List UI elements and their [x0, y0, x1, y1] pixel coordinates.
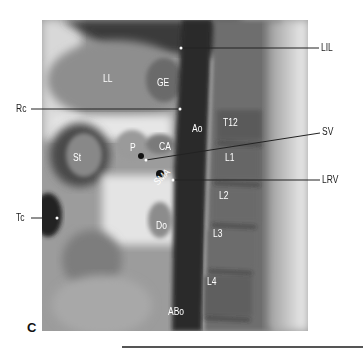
- label-Do: Do: [156, 221, 167, 231]
- mri-tissue-rendering: [42, 20, 308, 331]
- label-GE: GE: [157, 78, 169, 88]
- label-SV: SV: [322, 127, 333, 137]
- label-Tc: Tc: [16, 213, 25, 223]
- label-ABo: ABo: [168, 307, 184, 317]
- bottom-rule: [122, 346, 363, 348]
- label-LRV: LRV: [322, 175, 338, 185]
- label-L1: L1: [225, 153, 234, 163]
- label-L4: L4: [207, 277, 216, 287]
- label-P: P: [130, 143, 136, 153]
- label-CA: CA: [159, 142, 171, 152]
- label-T12: T12: [223, 118, 238, 128]
- panel-letter: C: [27, 320, 36, 335]
- label-Rc: Rc: [16, 104, 26, 114]
- mri-sagittal-image: LL GE Ao T12 P CA St L1 SMA L2 Do L3 L4 …: [42, 20, 308, 331]
- label-LIL: LIL: [321, 43, 333, 53]
- label-L3: L3: [213, 229, 222, 239]
- label-LL: LL: [103, 74, 112, 84]
- label-Ao: Ao: [192, 124, 202, 134]
- label-L2: L2: [219, 191, 228, 201]
- label-St: St: [73, 153, 81, 163]
